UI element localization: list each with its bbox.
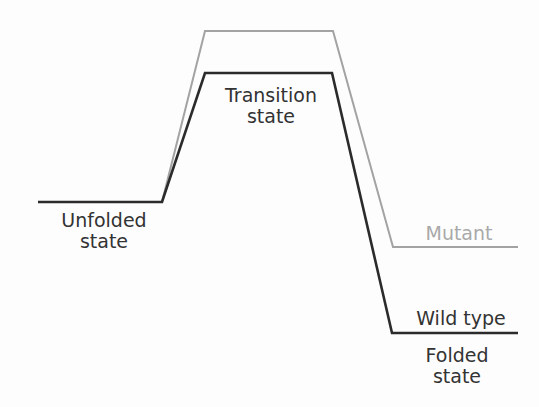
mutant-label: Mutant: [425, 222, 492, 244]
transition-state-label-line2: state: [247, 105, 295, 127]
folding-energy-diagram: Unfolded state Transition state Mutant W…: [0, 0, 539, 407]
wild-type-label: Wild type: [416, 307, 505, 329]
transition-state-label-line1: Transition: [224, 84, 317, 106]
folded-state-label-line2: state: [433, 365, 481, 387]
folded-state-label-line1: Folded: [426, 344, 489, 366]
unfolded-state-label-line1: Unfolded: [61, 209, 146, 231]
unfolded-state-label-line2: state: [80, 230, 128, 252]
